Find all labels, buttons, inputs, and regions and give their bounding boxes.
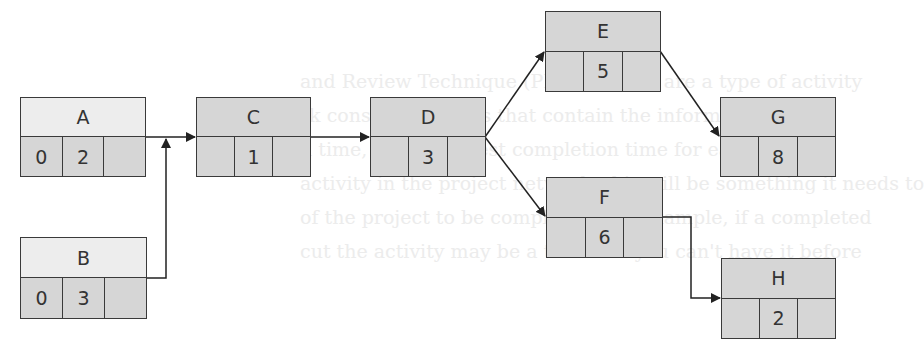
node-d-values: 3 (371, 137, 485, 176)
node-d-early-start (371, 137, 408, 176)
node-b-early-start: 0 (21, 278, 62, 318)
node-c-duration: 1 (234, 137, 272, 176)
node-c-early-start (197, 137, 234, 176)
node-g: G 8 (720, 97, 836, 177)
node-g-duration: 8 (758, 137, 796, 176)
node-e: E 5 (545, 11, 661, 92)
node-f-early-start (547, 218, 585, 258)
node-f-late-start (623, 218, 662, 258)
node-h-late-start (797, 299, 835, 339)
node-f: F 6 (546, 177, 663, 258)
node-h-duration: 2 (759, 299, 797, 339)
edge-e-to-g (660, 51, 719, 136)
node-c-values: 1 (197, 137, 310, 176)
node-d-duration: 3 (408, 137, 446, 176)
node-h: H 2 (721, 258, 836, 339)
node-d-late-start (447, 137, 485, 176)
node-a-values: 0 2 (21, 137, 145, 176)
node-e-values: 5 (546, 52, 660, 92)
node-b-values: 0 3 (21, 278, 146, 318)
node-g-label: G (721, 98, 835, 137)
node-g-values: 8 (721, 137, 835, 176)
node-a-early-start: 0 (21, 137, 62, 176)
node-g-early-start (721, 137, 758, 176)
node-a: A 0 2 (20, 97, 146, 177)
node-e-late-start (622, 52, 660, 92)
node-b-label: B (21, 238, 146, 278)
node-a-label: A (21, 98, 145, 137)
node-h-label: H (722, 259, 835, 299)
node-c: C 1 (196, 97, 311, 177)
node-d: D 3 (370, 97, 486, 177)
node-b: B 0 3 (20, 237, 147, 319)
node-e-label: E (546, 12, 660, 52)
node-b-duration: 3 (62, 278, 104, 318)
node-a-duration: 2 (62, 137, 104, 176)
node-g-late-start (797, 137, 835, 176)
edge-b-to-c (146, 139, 166, 278)
node-e-early-start (546, 52, 583, 92)
node-h-values: 2 (722, 299, 835, 339)
node-f-duration: 6 (585, 218, 624, 258)
node-e-duration: 5 (583, 52, 621, 92)
node-c-label: C (197, 98, 310, 137)
node-f-values: 6 (547, 218, 662, 258)
node-d-label: D (371, 98, 485, 137)
node-c-late-start (272, 137, 310, 176)
node-b-late-start (104, 278, 146, 318)
edge-d-to-e (485, 52, 544, 137)
edge-f-to-h (662, 217, 720, 298)
node-a-late-start (103, 137, 145, 176)
node-f-label: F (547, 178, 662, 218)
node-h-early-start (722, 299, 759, 339)
edge-d-to-f (485, 137, 545, 216)
